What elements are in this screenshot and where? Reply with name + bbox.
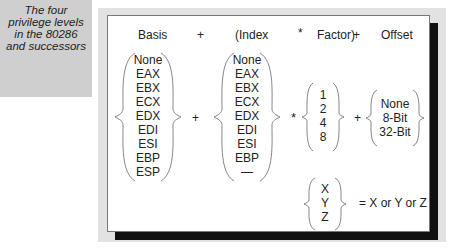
- caption-text: The four privilege levels in the 80286 a…: [6, 4, 86, 97]
- header-times: *: [298, 26, 303, 40]
- header-plus-2: +: [353, 28, 360, 42]
- basis-item: EAX: [128, 67, 168, 81]
- basis-item: EDI: [128, 123, 168, 137]
- offset-item: 8-Bit: [373, 111, 417, 125]
- diagram-panel: Basis + (Index * Factor) + Offset None E…: [107, 15, 430, 232]
- header-offset: Offset: [381, 28, 413, 42]
- header-factor: Factor): [317, 28, 355, 42]
- legend-item: Z: [315, 210, 335, 224]
- basis-item: EBP: [128, 151, 168, 165]
- legend-item: Y: [315, 196, 335, 210]
- legend-item: X: [315, 182, 335, 196]
- factor-item: 2: [313, 102, 333, 116]
- factor-list: 1 2 4 8: [313, 88, 333, 144]
- index-item: ESI: [227, 137, 267, 151]
- factor-item: 8: [313, 130, 333, 144]
- basis-item: None: [128, 53, 168, 67]
- basis-item: EBX: [128, 81, 168, 95]
- offset-item: 32-Bit: [373, 125, 417, 139]
- index-item: —: [227, 165, 267, 179]
- basis-item: ECX: [128, 95, 168, 109]
- index-item: EDI: [227, 123, 267, 137]
- offset-list: None 8-Bit 32-Bit: [373, 97, 417, 139]
- basis-item: ESP: [128, 165, 168, 179]
- plus-operator: +: [192, 111, 199, 125]
- header-plus: +: [197, 28, 204, 42]
- caption-box: The four privilege levels in the 80286 a…: [0, 0, 92, 97]
- index-item: EBP: [227, 151, 267, 165]
- offset-item: None: [373, 97, 417, 111]
- index-item: EAX: [227, 67, 267, 81]
- factor-item: 4: [313, 116, 333, 130]
- legend-list: X Y Z: [315, 182, 335, 224]
- index-item: EDX: [227, 109, 267, 123]
- legend-text: = X or Y or Z: [359, 196, 427, 210]
- index-list: None EAX EBX ECX EDX EDI ESI EBP —: [227, 53, 267, 179]
- basis-item: EDX: [128, 109, 168, 123]
- index-item: ECX: [227, 95, 267, 109]
- header-index: (Index: [235, 28, 268, 42]
- plus-operator-2: +: [354, 111, 361, 125]
- basis-item: ESI: [128, 137, 168, 151]
- basis-list: None EAX EBX ECX EDX EDI ESI EBP ESP: [128, 53, 168, 179]
- star-operator: *: [291, 111, 296, 125]
- index-item: None: [227, 53, 267, 67]
- header-basis: Basis: [138, 28, 167, 42]
- index-item: EBX: [227, 81, 267, 95]
- factor-item: 1: [313, 88, 333, 102]
